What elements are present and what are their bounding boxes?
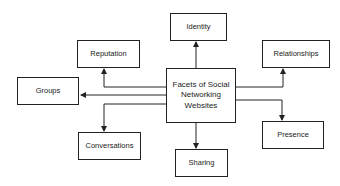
node-conversations: Conversations [78, 132, 141, 160]
center-node: Facets of Social Networking Websites [166, 68, 236, 123]
node-groups: Groups [17, 77, 79, 105]
node-identity: Identity [170, 13, 227, 41]
diagram-canvas: Facets of Social Networking Websites Ide… [0, 0, 340, 186]
node-presence: Presence [262, 121, 324, 149]
node-relationships: Relationships [262, 40, 330, 68]
node-reputation: Reputation [77, 40, 140, 68]
node-sharing: Sharing [175, 149, 228, 177]
